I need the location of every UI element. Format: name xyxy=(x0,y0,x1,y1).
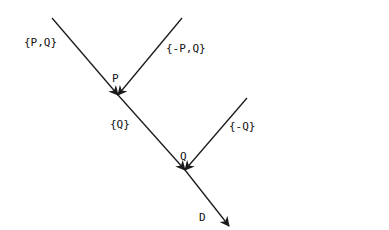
label-npq: {-P,Q} xyxy=(166,42,206,55)
edge-pq-to-p xyxy=(52,18,118,95)
edge-npq-to-p xyxy=(118,18,182,95)
edge-p-to-q xyxy=(118,95,185,170)
node-d-label: D xyxy=(199,211,206,224)
node-p-label: P xyxy=(112,72,119,85)
node-q-label: Q xyxy=(180,150,187,163)
label-nq: {-Q} xyxy=(229,120,256,133)
edge-q-to-d xyxy=(185,170,229,226)
edge-nq-to-q xyxy=(185,98,247,170)
label-pq: {P,Q} xyxy=(24,36,57,49)
diagram-canvas: {P,Q} {-P,Q} P {Q} {-Q} Q D xyxy=(0,0,389,230)
label-q-set: {Q} xyxy=(110,118,130,131)
